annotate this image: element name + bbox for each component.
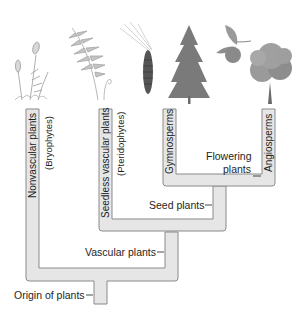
node-label-seed-plants: Seed plants — [149, 199, 204, 211]
node-label-flowering-line1: Flowering — [206, 150, 252, 162]
plant-cladogram: Nonvascular plants (Bryophytes) Seedless… — [0, 0, 306, 317]
node-label-flowering-line2: plants — [223, 163, 251, 175]
node-label-vascular-plants: Vascular plants — [85, 246, 156, 258]
flowering-branch — [163, 109, 275, 186]
node-label-origin-of-plants: Origin of plants — [14, 289, 85, 301]
tip-sublabel-bryophytes: (Bryophytes) — [43, 116, 54, 170]
tip-label-nonvascular: Nonvascular plants — [27, 113, 38, 198]
tip-sublabel-pteridophytes: (Pteridophytes) — [115, 112, 126, 176]
tip-label-angiosperms: Angiosperms — [263, 114, 274, 172]
tip-label-gymnosperms: Gymnosperms — [164, 109, 175, 174]
tip-label-seedless-vascular: Seedless vascular plants — [100, 107, 111, 218]
